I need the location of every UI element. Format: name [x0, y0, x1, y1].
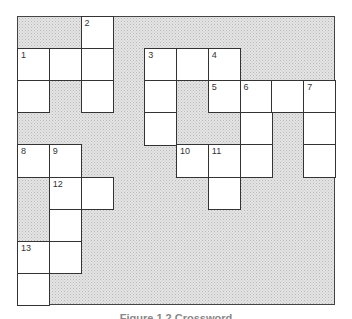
crossword-cell[interactable]	[81, 48, 114, 81]
crossword-cell[interactable]: 3	[144, 48, 177, 81]
crossword-cell[interactable]: 2	[81, 16, 114, 49]
clue-number: 1	[21, 51, 26, 60]
figure-caption: Figure 1.2 Crossword	[0, 309, 352, 319]
crossword-cell[interactable]: 9	[49, 144, 82, 177]
crossword-cell[interactable]: 11	[208, 144, 241, 177]
clue-number: 11	[212, 147, 221, 156]
crossword-cell[interactable]	[271, 80, 304, 113]
clue-number: 8	[21, 147, 26, 156]
crossword-cell[interactable]	[81, 80, 114, 113]
crossword-cell[interactable]	[208, 177, 241, 210]
crossword-cell[interactable]	[303, 144, 336, 177]
clue-number: 10	[180, 147, 190, 156]
crossword-cell[interactable]	[49, 48, 82, 81]
clue-number: 9	[53, 147, 58, 156]
crossword-cell[interactable]	[240, 112, 273, 145]
clue-number: 12	[53, 180, 63, 189]
crossword-cell[interactable]: 5	[208, 80, 241, 113]
crossword-cell[interactable]	[49, 241, 82, 274]
crossword-cell[interactable]	[144, 80, 177, 113]
crossword-cell[interactable]: 10	[176, 144, 209, 177]
clue-number: 5	[212, 83, 217, 92]
crossword-cell[interactable]: 6	[240, 80, 273, 113]
crossword-cell[interactable]	[144, 112, 177, 145]
crossword-cell[interactable]	[17, 273, 50, 306]
crossword-cell[interactable]	[303, 112, 336, 145]
crossword-cell[interactable]: 7	[303, 80, 336, 113]
crossword-cell[interactable]: 4	[208, 48, 241, 81]
crossword-cell[interactable]	[17, 80, 50, 113]
crossword-cell[interactable]: 8	[17, 144, 50, 177]
crossword-cell[interactable]: 13	[17, 241, 50, 274]
crossword-cell[interactable]: 12	[49, 177, 82, 210]
crossword-cell[interactable]	[49, 209, 82, 242]
crossword-cell[interactable]	[240, 144, 273, 177]
clue-number: 13	[21, 244, 31, 253]
clue-number: 4	[212, 51, 217, 60]
clue-number: 3	[148, 51, 153, 60]
clue-number: 7	[307, 83, 312, 92]
crossword-cell[interactable]	[176, 48, 209, 81]
crossword-grid: 21345678910111213	[17, 16, 335, 305]
crossword-cell[interactable]: 1	[17, 48, 50, 81]
clue-number: 6	[244, 83, 249, 92]
clue-number: 2	[85, 19, 90, 28]
crossword-cell[interactable]	[81, 177, 114, 210]
